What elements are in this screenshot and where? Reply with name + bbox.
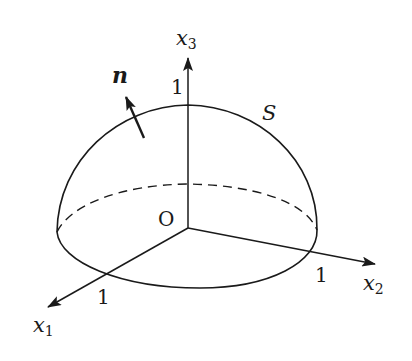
normal-vector-label: n (112, 64, 128, 86)
x3-label-var: x (176, 26, 188, 50)
base-ellipse-back (57, 184, 317, 232)
x2-axis-label: x2 (363, 273, 384, 296)
x2-tick-label: 1 (315, 265, 328, 285)
hemisphere-dome (57, 105, 317, 232)
x2-axis (188, 228, 375, 264)
x1-axis (48, 228, 188, 307)
normal-vector-arrow (126, 97, 144, 138)
x1-tick-label: 1 (97, 287, 110, 307)
x3-label-subscript: 3 (188, 36, 197, 52)
x3-axis-label: x3 (176, 28, 197, 51)
hemisphere-diagram (0, 0, 412, 361)
surface-label: S (262, 103, 276, 124)
x3-tick-label: 1 (171, 77, 184, 97)
x1-label-subscript: 1 (45, 323, 54, 339)
origin-label: O (158, 209, 174, 229)
x2-label-var: x (363, 271, 375, 295)
x2-label-subscript: 2 (375, 281, 384, 297)
x1-label-var: x (33, 313, 45, 337)
x1-axis-label: x1 (33, 315, 54, 338)
